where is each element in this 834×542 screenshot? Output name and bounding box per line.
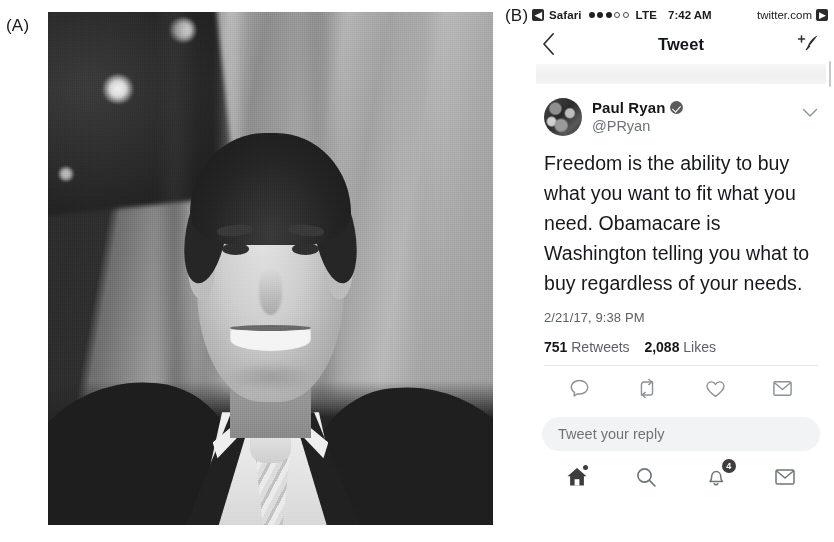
- share-button[interactable]: [771, 378, 794, 399]
- author-display-name[interactable]: Paul Ryan: [592, 99, 665, 116]
- status-bar-left: ◀ Safari LTE 7:42 AM: [532, 9, 712, 21]
- tab-search[interactable]: [634, 465, 658, 489]
- search-icon: [634, 465, 658, 489]
- home-unread-dot: [583, 465, 588, 470]
- tweet-detail: Paul Ryan @PRyan Freedom is the ability …: [528, 84, 834, 366]
- signal-strength-icon: [589, 12, 629, 18]
- flag-star-icon: [101, 74, 135, 104]
- like-button[interactable]: [704, 377, 727, 400]
- tweet-timestamp: 2/21/17, 9:38 PM: [544, 310, 818, 325]
- tab-messages[interactable]: [773, 466, 797, 488]
- author-names: Paul Ryan @PRyan: [592, 99, 683, 135]
- site-domain-label: twitter.com: [757, 9, 812, 21]
- phone-screenshot: ◀ Safari LTE 7:42 AM twitter.com ▶ Tweet: [528, 4, 834, 538]
- share-icon: [771, 378, 794, 399]
- like-label[interactable]: Likes: [683, 339, 716, 355]
- tab-home[interactable]: [565, 465, 589, 489]
- tweet-more-button[interactable]: [802, 104, 818, 122]
- page-title: Tweet: [528, 35, 834, 54]
- like-count[interactable]: 2,088: [644, 339, 679, 355]
- reply-placeholder: Tweet your reply: [558, 426, 664, 442]
- messages-icon: [773, 466, 797, 488]
- nose: [259, 269, 281, 315]
- bottom-tab-bar: 4: [528, 451, 834, 499]
- back-arrow-icon[interactable]: ◀: [532, 9, 544, 21]
- status-bar: ◀ Safari LTE 7:42 AM twitter.com ▶: [528, 4, 834, 26]
- flag-fold: [395, 12, 448, 397]
- flag-fold: [155, 12, 195, 397]
- chevron-down-icon: [802, 108, 818, 118]
- tweet-stats: 751 Retweets 2,088 Likes: [544, 339, 818, 355]
- like-icon: [704, 377, 727, 400]
- panel-a-label: (A): [6, 16, 29, 36]
- chin-shadow: [226, 361, 315, 392]
- tweet-text: Freedom is the ability to buy what you w…: [544, 148, 818, 298]
- author-name-line: Paul Ryan: [592, 99, 683, 116]
- forward-arrow-icon[interactable]: ▶: [816, 9, 828, 21]
- panel-b-label: (B): [505, 6, 528, 26]
- author-handle[interactable]: @PRyan: [592, 118, 683, 135]
- navigation-bar: Tweet: [528, 26, 834, 62]
- verified-badge-icon: [670, 101, 683, 114]
- retweet-count[interactable]: 751: [544, 339, 567, 355]
- retweet-label[interactable]: Retweets: [571, 339, 629, 355]
- tweet-actions: [528, 366, 834, 411]
- reply-icon: [568, 377, 591, 400]
- retweet-button[interactable]: [635, 377, 659, 400]
- scroll-artifact-banner: [536, 64, 826, 84]
- notifications-badge: 4: [722, 459, 736, 473]
- tab-notifications[interactable]: 4: [704, 465, 728, 489]
- status-clock: 7:42 AM: [668, 9, 712, 21]
- status-back-app-label[interactable]: Safari: [549, 9, 582, 21]
- status-bar-right: twitter.com ▶: [757, 9, 828, 21]
- mouth-line: [230, 325, 310, 331]
- carrier-tech-label: LTE: [636, 9, 657, 21]
- tweet-author-row[interactable]: Paul Ryan @PRyan: [544, 98, 818, 136]
- retweet-icon: [635, 377, 659, 400]
- compose-button[interactable]: [796, 33, 820, 55]
- reply-button[interactable]: [568, 377, 591, 400]
- portrait-photo: [48, 12, 493, 525]
- reply-composer[interactable]: Tweet your reply: [542, 417, 820, 451]
- compose-quill-icon: [796, 33, 820, 55]
- flag-star-icon: [57, 166, 75, 182]
- avatar[interactable]: [544, 98, 582, 136]
